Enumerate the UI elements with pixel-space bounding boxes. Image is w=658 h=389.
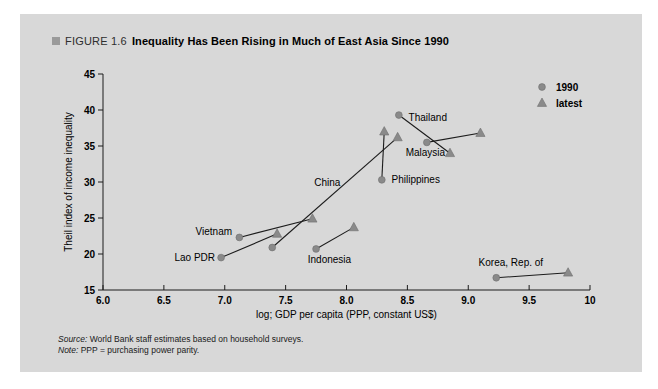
point-1990-lao-pdr — [218, 254, 225, 261]
country-label-malaysia: Malaysia — [406, 147, 446, 158]
x-tick-label: 8.0 — [340, 295, 354, 306]
figure-footnotes: Source: World Bank staff estimates based… — [58, 334, 303, 356]
point-1990-korea-rep-of — [493, 274, 500, 281]
y-tick-label: 35 — [84, 141, 96, 152]
legend-triangle-icon — [537, 98, 546, 106]
x-tick-label: 6.0 — [96, 295, 110, 306]
trend-line-philippines — [382, 132, 384, 180]
figure-panel: FIGURE 1.6 Inequality Has Been Rising in… — [20, 14, 642, 372]
point-latest-philippines — [380, 127, 389, 135]
x-tick-label: 9.0 — [461, 295, 475, 306]
legend-label-1990: 1990 — [556, 82, 579, 93]
note-label: Note: — [58, 345, 78, 355]
point-latest-lao-pdr — [273, 229, 282, 237]
x-tick-label: 7.0 — [218, 295, 232, 306]
point-1990-vietnam — [236, 234, 243, 241]
country-label-china: China — [314, 177, 341, 188]
trend-line-indonesia — [316, 227, 354, 249]
trend-line-korea-rep-of — [496, 273, 568, 278]
inequality-scatter-chart: 152025303540456.06.57.07.58.08.59.09.510… — [20, 14, 642, 372]
point-1990-indonesia — [313, 246, 320, 253]
country-label-thailand: Thailand — [409, 112, 447, 123]
x-tick-label: 7.5 — [279, 295, 293, 306]
x-tick-label: 6.5 — [157, 295, 171, 306]
note-text: PPP = purchasing power parity. — [78, 345, 199, 355]
trend-line-china — [272, 137, 397, 247]
point-1990-thailand — [395, 112, 402, 119]
source-line: Source: World Bank staff estimates based… — [58, 334, 303, 345]
trend-line-lao-pdr — [221, 234, 277, 258]
source-text: World Bank staff estimates based on hous… — [87, 334, 303, 344]
y-axis-title: Theil index of income inequality — [63, 112, 74, 252]
x-tick-label: 8.5 — [400, 295, 414, 306]
point-latest-thailand — [445, 148, 454, 156]
point-1990-china — [269, 244, 276, 251]
country-label-lao-pdr: Lao PDR — [174, 252, 215, 263]
trend-line-malaysia — [427, 133, 481, 142]
legend-circle-icon — [539, 84, 546, 91]
point-latest-indonesia — [349, 222, 358, 230]
y-tick-label: 30 — [84, 177, 96, 188]
country-label-vietnam: Vietnam — [196, 226, 233, 237]
point-latest-malaysia — [476, 128, 485, 136]
point-1990-philippines — [378, 176, 385, 183]
y-tick-label: 20 — [84, 249, 96, 260]
x-tick-label: 10 — [584, 295, 596, 306]
point-latest-korea-rep-of — [563, 268, 572, 276]
y-tick-label: 40 — [84, 105, 96, 116]
country-label-korea-rep-of: Korea, Rep. of — [479, 257, 544, 268]
point-1990-malaysia — [423, 139, 430, 146]
legend-label-latest: latest — [556, 98, 583, 109]
y-tick-label: 25 — [84, 213, 96, 224]
source-label: Source: — [58, 334, 87, 344]
y-tick-label: 45 — [84, 69, 96, 80]
point-latest-china — [393, 132, 402, 140]
note-line: Note: PPP = purchasing power parity. — [58, 345, 303, 356]
x-tick-label: 9.5 — [522, 295, 536, 306]
x-axis-title: log; GDP per capita (PPP, constant US$) — [256, 309, 437, 320]
y-tick-label: 15 — [84, 285, 96, 296]
country-label-philippines: Philippines — [392, 174, 440, 185]
country-label-indonesia: Indonesia — [308, 254, 352, 265]
